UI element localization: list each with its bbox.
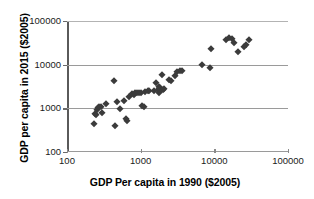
- data-point: [206, 65, 214, 73]
- gridline-100000: [67, 21, 288, 22]
- x-tick-label-100: 100: [37, 155, 97, 166]
- data-point: [207, 45, 215, 53]
- scatter-chart: GDP per capita in 2015 ($2005) 100100010…: [0, 0, 314, 199]
- data-point: [198, 61, 206, 69]
- plot-area: [67, 21, 288, 152]
- y-tick-label-1000: 1000: [0, 102, 61, 113]
- gridline-10000: [67, 65, 288, 66]
- data-point: [110, 77, 118, 85]
- x-tick-label-100000: 100000: [258, 155, 314, 166]
- y-tick-label-10000: 10000: [0, 59, 61, 70]
- data-point: [124, 117, 132, 125]
- data-point: [234, 48, 242, 56]
- data-point: [90, 121, 98, 129]
- data-point: [98, 109, 106, 117]
- x-axis-title: GDP Per capita in 1990 ($2005): [40, 176, 290, 188]
- x-tick-label-10000: 10000: [184, 155, 244, 166]
- data-point: [111, 122, 119, 130]
- data-point: [230, 39, 238, 47]
- x-tick-100000: [288, 149, 289, 153]
- x-tick-100: [67, 149, 68, 153]
- x-tick-1000: [141, 149, 142, 153]
- x-tick-label-1000: 1000: [111, 155, 171, 166]
- data-point: [116, 105, 124, 113]
- y-tick-label-100000: 100000: [0, 15, 61, 26]
- y-axis-title: GDP per capita in 2015 ($2005): [16, 8, 32, 168]
- x-tick-10000: [214, 149, 215, 153]
- data-point: [158, 71, 166, 79]
